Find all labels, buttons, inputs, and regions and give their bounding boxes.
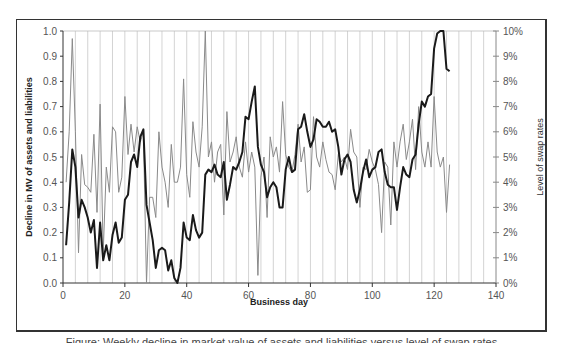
left-tick-label: 1.0 <box>43 26 57 37</box>
right-tick-label: 8% <box>503 76 518 87</box>
left-tick-label: 0.1 <box>43 252 57 263</box>
right-tick-label: 3% <box>503 202 518 213</box>
x-axis-title: Business day <box>250 297 308 307</box>
left-tick-label: 0.3 <box>43 202 57 213</box>
left-tick-label: 0.5 <box>43 152 57 163</box>
left-tick-label: 0.0 <box>43 278 57 289</box>
right-tick-label: 0% <box>503 278 518 289</box>
dual-axis-line-chart: 0.00.10.20.30.40.50.60.70.80.91.00%1%2%3… <box>0 0 563 343</box>
tick-labels: 0.00.10.20.30.40.50.60.70.80.91.00%1%2%3… <box>43 26 523 302</box>
x-tick-label: 40 <box>181 290 193 301</box>
left-tick-label: 0.7 <box>43 101 57 112</box>
left-tick-label: 0.4 <box>43 177 57 188</box>
right-tick-label: 7% <box>503 101 518 112</box>
data-series <box>66 31 450 283</box>
left-tick-label: 0.9 <box>43 51 57 62</box>
right-tick-label: 4% <box>503 177 518 188</box>
right-tick-label: 9% <box>503 51 518 62</box>
left-tick-label: 0.2 <box>43 227 57 238</box>
left-y-axis-title: Decline in MV of assets and liabilities <box>24 77 34 237</box>
right-tick-label: 2% <box>503 227 518 238</box>
right-tick-label: 10% <box>503 26 523 37</box>
swap-rate-line <box>66 31 450 283</box>
x-tick-label: 120 <box>426 290 443 301</box>
left-tick-label: 0.6 <box>43 126 57 137</box>
mv-decline-line <box>66 31 450 283</box>
right-tick-label: 5% <box>503 152 518 163</box>
right-y-axis-title: Level of swap rates <box>535 118 545 196</box>
left-tick-label: 0.8 <box>43 76 57 87</box>
x-tick-label: 0 <box>60 290 66 301</box>
x-tick-label: 100 <box>364 290 381 301</box>
right-tick-label: 1% <box>503 252 518 263</box>
figure-caption: Figure: Weekly decline in market value o… <box>0 336 563 343</box>
x-tick-label: 140 <box>488 290 505 301</box>
x-tick-label: 20 <box>119 290 131 301</box>
right-tick-label: 6% <box>503 126 518 137</box>
